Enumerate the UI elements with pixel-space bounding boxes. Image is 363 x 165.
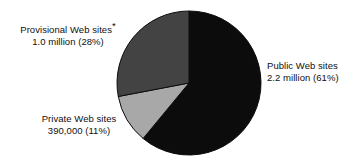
pie-label-private-value: 390,000 (11%): [26, 125, 132, 137]
pie-label-public-web-sites: Public Web sites 2.2 million (61%): [267, 60, 339, 83]
pie-label-public-name: Public Web sites: [267, 60, 339, 72]
pie-label-private-web-sites: Private Web sites 390,000 (11%): [26, 113, 132, 136]
pie-label-private-name: Private Web sites: [26, 113, 132, 125]
pie-label-provisional-name: Provisional Web sites*: [10, 24, 126, 36]
pie-label-public-value: 2.2 million (61%): [267, 72, 339, 84]
footnote-asterisk-icon: *: [112, 20, 116, 31]
pie-slice-provisional-web-sites[interactable]: [117, 11, 189, 96]
pie-label-provisional-value: 1.0 million (28%): [10, 36, 126, 48]
pie-label-provisional-web-sites: Provisional Web sites* 1.0 million (28%): [10, 24, 126, 47]
pie-chart-figure: Provisional Web sites* 1.0 million (28%)…: [0, 0, 363, 165]
